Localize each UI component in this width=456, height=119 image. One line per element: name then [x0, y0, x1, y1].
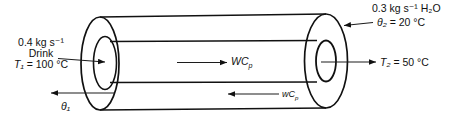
inner-tube-top-edge [110, 41, 317, 42]
heat-exchanger-figure: 0.4 kg s⁻¹ Drink T₁= 100 °C 0.3 kg s⁻¹ H… [0, 0, 456, 119]
hot-outlet-temp-value: = 50 °C [393, 56, 428, 68]
hot-inlet-label-block: 0.4 kg s⁻¹ Drink T₁= 100 °C [7, 37, 75, 69]
inner-tube-right-end [316, 41, 336, 82]
cold-capacity-rate-symbol: wC [282, 89, 295, 99]
hot-inlet-temp-label: T₁= 100 °C [7, 59, 75, 70]
hot-outlet-temp-symbol: T₂ [380, 56, 390, 68]
flow-arrows [51, 23, 376, 95]
outer-shell-top-edge [100, 14, 326, 17]
hot-outlet-temp-label: T₂= 50 °C [380, 57, 429, 68]
hot-inlet-temp-value: = 100 °C [27, 58, 68, 70]
cold-flow-rate-label: 0.3 kg s⁻¹ H₂O [372, 3, 441, 14]
outer-shell-left-end [81, 17, 119, 110]
inner-tube-left-end [94, 37, 117, 90]
outer-shell-bottom-edge [100, 108, 326, 110]
hot-capacity-rate-symbol: WC [231, 55, 249, 67]
water-inlet-arrow [344, 23, 373, 26]
cold-inlet-temp-symbol: θ₂ [377, 16, 387, 28]
cold-inlet-temp-label: θ₂= 20 °C [377, 17, 425, 28]
hot-capacity-rate-subscript: p [249, 62, 253, 70]
outer-shell-right-end [305, 14, 348, 108]
cold-capacity-rate-label: wCp [282, 89, 298, 100]
cold-outlet-temp-label: θ₁ [61, 101, 70, 112]
cold-inlet-temp-value: = 20 °C [390, 16, 425, 28]
inner-tube-bottom-edge [110, 82, 317, 83]
hot-inlet-temp-symbol: T₁ [14, 58, 24, 70]
cold-capacity-rate-subscript: p [295, 94, 298, 101]
hot-capacity-rate-label: WCp [231, 56, 252, 67]
